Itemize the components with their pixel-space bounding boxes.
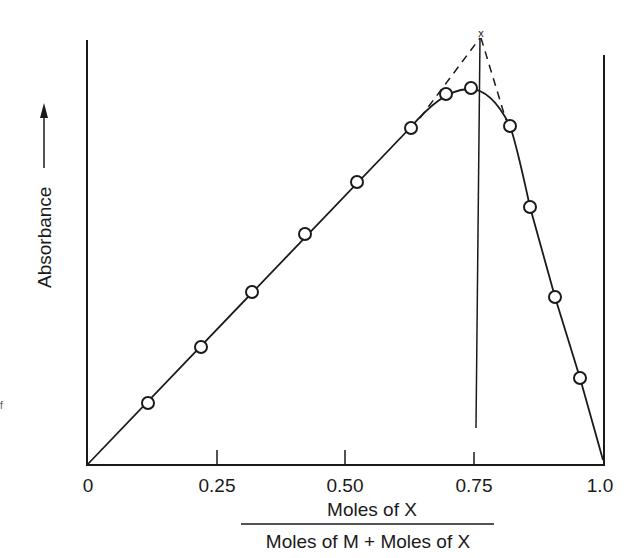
data-point bbox=[246, 286, 258, 298]
x-tick-label-050: 0.50 bbox=[327, 475, 364, 496]
data-point bbox=[524, 201, 536, 213]
x-tick-label-0: 0 bbox=[83, 475, 94, 496]
y-axis-arrow-head-icon bbox=[40, 103, 48, 118]
x-tick-label-1: 1.0 bbox=[587, 475, 613, 496]
data-point bbox=[440, 88, 452, 100]
data-point bbox=[504, 120, 516, 132]
stoichiometry-line bbox=[476, 38, 480, 428]
extrapolation-left bbox=[420, 38, 480, 118]
data-point bbox=[351, 176, 363, 188]
data-point bbox=[299, 228, 311, 240]
data-points bbox=[142, 82, 586, 409]
data-point bbox=[142, 397, 154, 409]
data-curve bbox=[87, 89, 603, 465]
extrapolation-right bbox=[481, 38, 506, 120]
data-point bbox=[195, 341, 207, 353]
x-axis-title-numerator: Moles of X bbox=[327, 499, 417, 520]
job-plot-chart: 0 0.25 0.50 0.75 1.0 Moles of X Moles of… bbox=[0, 0, 636, 558]
data-point bbox=[549, 291, 561, 303]
data-point bbox=[574, 372, 586, 384]
data-point bbox=[405, 122, 417, 134]
peak-marker: x bbox=[478, 27, 484, 39]
y-axis-title: Absorbance bbox=[34, 187, 55, 288]
x-axis-title-denominator: Moles of M + Moles of X bbox=[266, 531, 471, 552]
data-point bbox=[465, 82, 477, 94]
x-tick-label-075: 0.75 bbox=[456, 475, 493, 496]
x-tick-label-025: 0.25 bbox=[199, 475, 236, 496]
